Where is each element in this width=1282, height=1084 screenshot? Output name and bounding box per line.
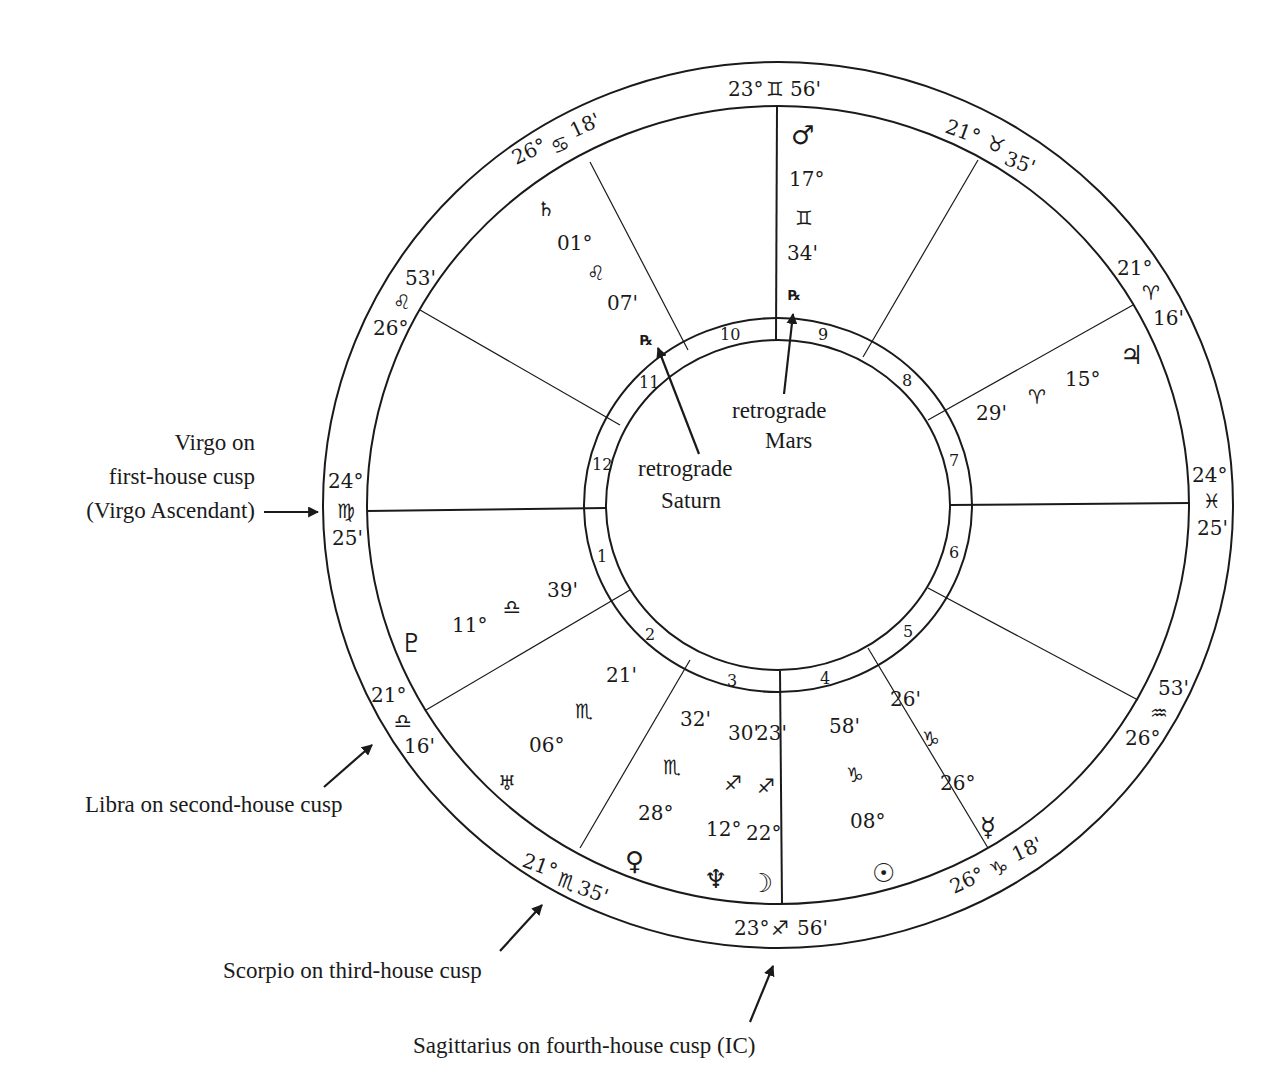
planet-pluto: ♇ 11° ♎ 39' — [400, 578, 578, 658]
neptune-degree: 12° — [706, 817, 741, 841]
astrology-chart-wheel: 1 2 3 4 5 6 7 8 9 10 11 12 23° ♊ 56' 26°… — [0, 0, 1282, 1084]
house-number-4: 4 — [820, 669, 830, 688]
mercury-degree: 26° — [940, 771, 975, 795]
h8-minutes: 16' — [1153, 306, 1184, 330]
house-number-2: 2 — [645, 625, 655, 644]
venus-sign-scorpio-icon: ♏ — [663, 755, 681, 779]
retrograde-mars-arrow — [784, 314, 793, 394]
jupiter-icon: ♃ — [1120, 340, 1143, 370]
h8-degree: 21° — [1117, 256, 1152, 280]
aries-icon: ♈ — [1142, 281, 1160, 305]
pluto-icon: ♇ — [400, 628, 423, 658]
h12-degree: 26° — [373, 316, 408, 340]
venus-icon: ♀ — [625, 846, 644, 876]
mars-degree: 17° — [789, 167, 824, 191]
mars-minutes: 34' — [787, 241, 818, 265]
uranus-minutes: 21' — [606, 663, 637, 687]
house-number-5: 5 — [903, 622, 913, 641]
mars-icon: ♂ — [791, 120, 814, 150]
h2-minutes: 16' — [404, 734, 435, 758]
house-cusp-lines — [367, 106, 1190, 904]
neptune-icon: ♆ — [704, 864, 727, 894]
cusp-line-6 — [928, 588, 1138, 700]
venus-minutes: 32' — [680, 707, 711, 731]
retrograde-saturn-label-line1: retrograde — [638, 456, 733, 481]
cusp-line-12 — [420, 310, 620, 425]
ic-minutes: 56' — [797, 916, 828, 940]
neptune-sign-sagittarius-icon: ♐ — [724, 771, 742, 795]
planet-uranus: ♅ 06° ♏ 21' — [498, 663, 637, 795]
pluto-sign-libra-icon: ♎ — [503, 595, 521, 619]
planet-venus: ♀ 28° ♏ 32' — [625, 707, 711, 876]
cusp-labels: 23° ♊ 56' 26° ♋ 18' 53' ♌ 26° 24° ♍ 25' … — [328, 77, 1228, 940]
planet-mercury: ☿ 26° ♑ 26' — [890, 687, 996, 842]
mercury-minutes: 26' — [890, 687, 921, 711]
mercury-sign-capricorn-icon: ♑ — [922, 727, 940, 751]
h2-annotation: Libra on second-house cusp — [85, 792, 342, 817]
sun-minutes: 58' — [829, 714, 860, 738]
saturn-retrograde-icon: ℞ — [640, 332, 653, 348]
moon-icon: ☽ — [750, 868, 773, 898]
h2-annotation-arrow — [324, 745, 372, 787]
sun-icon: ☉ — [872, 858, 895, 888]
outer-ring — [323, 62, 1233, 948]
jupiter-minutes: 29' — [976, 401, 1007, 425]
uranus-icon: ♅ — [498, 771, 516, 795]
mc-degree: 23° — [728, 77, 763, 101]
planet-saturn: ♄ 01° ♌ 07' ℞ — [537, 197, 653, 348]
cusp-line-2 — [426, 590, 630, 710]
dsc-degree: 24° — [1192, 463, 1227, 487]
house-number-11: 11 — [639, 373, 659, 392]
leo-icon: ♌ — [393, 290, 411, 314]
retrograde-mars-label-line1: retrograde — [732, 398, 827, 423]
saturn-minutes: 07' — [607, 291, 638, 315]
asc-annotation-line3: (Virgo Ascendant) — [86, 498, 255, 523]
gemini-icon: ♊ — [766, 77, 784, 101]
cusp-line-dsc — [950, 503, 1190, 505]
h3-annotation: Scorpio on third-house cusp — [223, 958, 482, 983]
neptune-minutes: 30' — [728, 721, 759, 745]
pisces-icon: ♓ — [1203, 489, 1221, 513]
moon-degree: 22° — [746, 821, 781, 845]
h12-minutes: 53' — [405, 266, 436, 290]
jupiter-sign-aries-icon: ♈ — [1028, 385, 1046, 409]
saturn-icon: ♄ — [537, 197, 555, 221]
sun-degree: 08° — [850, 809, 885, 833]
ic-annotation-arrow — [750, 966, 773, 1022]
ic-degree: 23° — [734, 916, 769, 940]
mars-retrograde-icon: ℞ — [788, 287, 801, 303]
mars-sign-gemini-icon: ♊ — [795, 206, 813, 230]
h11-degree: 26° — [508, 133, 550, 170]
libra-icon: ♎ — [394, 709, 412, 733]
planet-mars: ♂ 17° ♊ 34' ℞ — [787, 120, 824, 303]
saturn-degree: 01° — [557, 231, 592, 255]
planet-jupiter: ♃ 15° ♈ 29' — [976, 340, 1143, 425]
house-number-7: 7 — [949, 451, 959, 470]
planet-sun: ☉ 08° ♑ 58' — [829, 714, 895, 888]
sagittarius-icon: ♐ — [771, 916, 789, 940]
house-number-8: 8 — [902, 371, 912, 390]
h11-minutes: 18' — [566, 108, 604, 143]
pluto-degree: 11° — [452, 613, 487, 637]
mercury-icon: ☿ — [980, 812, 996, 842]
cusp-line-mc — [776, 106, 777, 340]
asc-degree: 24° — [328, 469, 363, 493]
house-number-1: 1 — [597, 547, 607, 566]
aquarius-icon: ♒ — [1150, 701, 1168, 725]
uranus-degree: 06° — [529, 733, 564, 757]
moon-minutes: 23' — [756, 721, 787, 745]
retrograde-mars-label-line2: Mars — [765, 428, 812, 453]
cancer-icon: ♋ — [547, 130, 573, 159]
jupiter-degree: 15° — [1065, 367, 1100, 391]
capricorn-icon: ♑ — [986, 853, 1012, 882]
uranus-sign-scorpio-icon: ♏ — [575, 699, 593, 723]
h3-degree: 21° — [519, 848, 561, 883]
house-number-6: 6 — [949, 543, 959, 562]
retrograde-saturn-label-line2: Saturn — [661, 488, 722, 513]
virgo-icon: ♍ — [337, 499, 355, 523]
h5-minutes: 18' — [1008, 832, 1046, 867]
pluto-minutes: 39' — [547, 578, 578, 602]
house-number-12: 12 — [592, 455, 612, 474]
moon-sign-sagittarius-icon: ♐ — [757, 774, 775, 798]
asc-annotation-line2: first-house cusp — [109, 464, 255, 489]
